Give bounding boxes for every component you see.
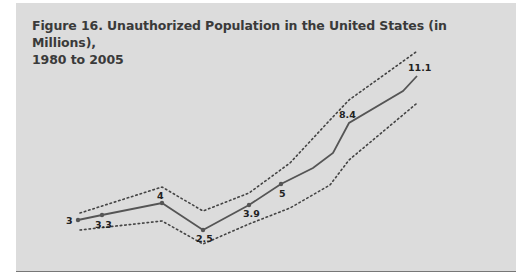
lower-bound-line	[80, 104, 416, 244]
point-label: 3.9	[243, 208, 260, 219]
point-label: 4	[157, 190, 164, 201]
upper-bound-line	[80, 52, 416, 213]
point-label: 3	[66, 215, 73, 226]
point-label: 2.5	[196, 233, 213, 244]
point-label: 3.3	[95, 219, 112, 230]
line-chart: 3 3.3 4 2.5 3.9 5 8.4 11.1	[0, 0, 516, 274]
point-label: 5	[279, 188, 286, 199]
point-label: 8.4	[339, 109, 356, 120]
estimate-line	[78, 76, 417, 230]
point-label: 11.1	[408, 62, 431, 73]
